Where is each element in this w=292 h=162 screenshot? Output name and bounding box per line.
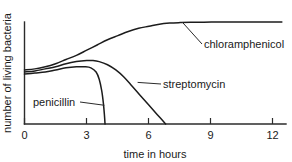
leader-line-chloramphenicol [182, 22, 202, 44]
leader-line-penicillin [80, 102, 104, 105]
series-label-penicillin: penicillin [33, 96, 75, 108]
leader-line-streptomycin [138, 82, 161, 84]
x-tick-label-0: 0 [21, 129, 27, 141]
series-label-chloramphenicol: chloramphenicol [204, 38, 284, 50]
chart-canvas: 0 3 6 9 12 time in hours number of livin… [0, 0, 292, 162]
x-tick-label-12: 12 [266, 129, 278, 141]
bacteria-growth-figure: 0 3 6 9 12 time in hours number of livin… [0, 0, 292, 162]
x-axis-title: time in hours [124, 148, 187, 160]
x-tick-label-6: 6 [145, 129, 151, 141]
x-tick-label-3: 3 [83, 129, 89, 141]
series-label-streptomycin: streptomycin [163, 78, 225, 90]
x-tick-label-9: 9 [207, 129, 213, 141]
y-axis-title: number of living bacteria [1, 12, 13, 133]
